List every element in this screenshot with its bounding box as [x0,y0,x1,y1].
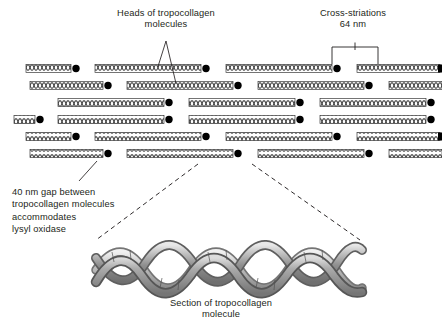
tropocollagen-triple-helix [96,245,362,293]
fibril-row [30,82,442,90]
fibril-rows [14,65,442,158]
heads-leader-lines [158,41,176,84]
gap-leader-line [79,161,97,181]
collagen-fibril-diagram: Heads of tropocollagen molecules Cross-s… [0,0,442,333]
fibril-row [30,150,442,158]
diagram-canvas [0,0,442,333]
fibril-row [58,99,435,107]
gap-annotation-label: 40 nm gap between tropocollagen molecule… [12,186,182,235]
fibril-row [14,116,435,124]
helix-caption-label: Section of tropocollagen molecule [131,298,311,320]
cross-striations-label: Cross-striations 64 nm [288,8,418,30]
fibril-row [26,133,442,141]
fibril-row [26,65,442,73]
cross-striation-bracket [332,43,378,65]
heads-of-tropocollagen-label: Heads of tropocollagen molecules [93,8,239,30]
